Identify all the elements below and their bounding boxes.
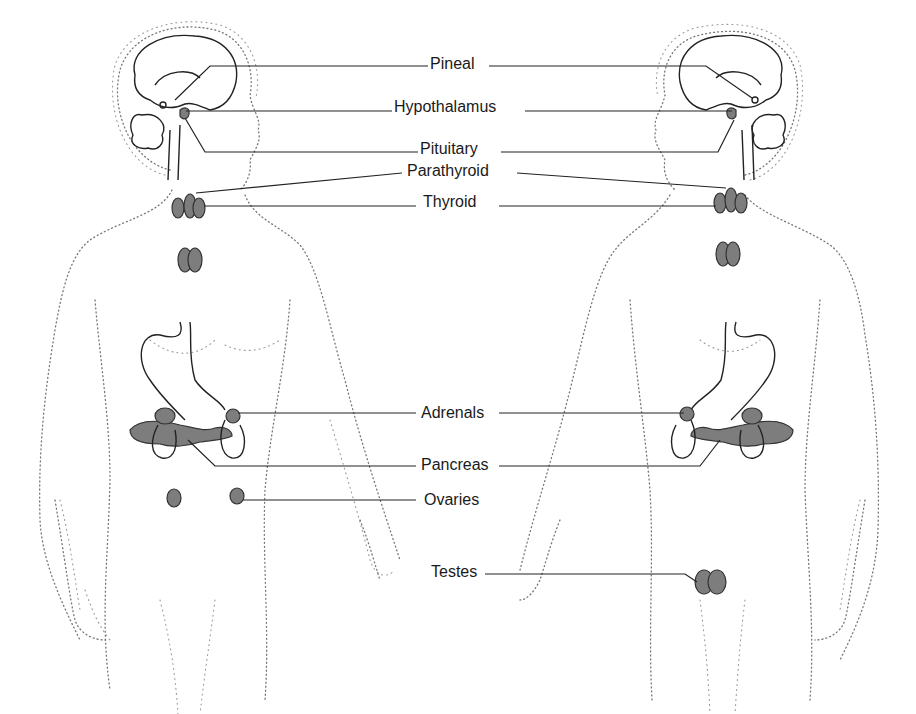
label-adrenals: Adrenals bbox=[421, 404, 484, 422]
label-pineal: Pineal bbox=[430, 55, 474, 73]
label-pancreas: Pancreas bbox=[421, 456, 489, 474]
label-hypothalamus: Hypothalamus bbox=[394, 98, 496, 116]
label-thyroid: Thyroid bbox=[423, 193, 476, 211]
label-ovaries: Ovaries bbox=[424, 491, 479, 509]
label-testes: Testes bbox=[431, 563, 477, 581]
label-pituitary: Pituitary bbox=[420, 140, 478, 158]
male-figure bbox=[520, 24, 878, 714]
female-figure bbox=[40, 22, 400, 714]
label-parathyroid: Parathyroid bbox=[407, 162, 489, 180]
